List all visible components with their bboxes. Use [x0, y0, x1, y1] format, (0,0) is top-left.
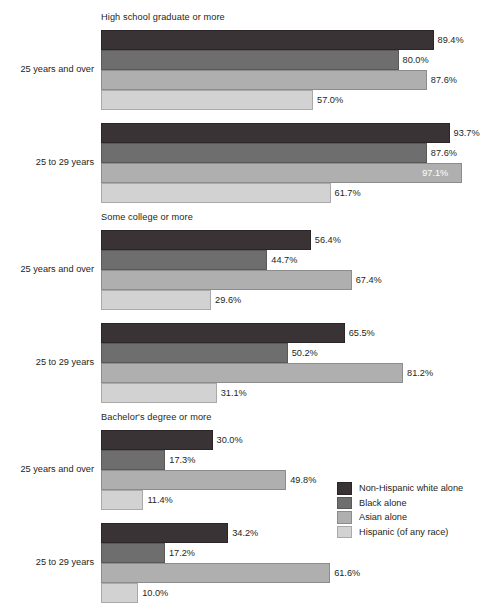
bar-1	[101, 450, 165, 470]
bar-3	[101, 583, 138, 603]
category-label: 25 to 29 years	[0, 157, 94, 167]
bar-row: 17.3%	[101, 450, 485, 470]
bar-row: 67.4%	[101, 270, 485, 290]
legend-item: Hispanic (of any race)	[337, 525, 485, 540]
category-label: 25 to 29 years	[0, 357, 94, 367]
bar-0	[101, 123, 450, 143]
bar-0	[101, 323, 345, 343]
bar-value-label: 56.4%	[315, 235, 341, 245]
bar-value-label: 17.2%	[169, 548, 195, 558]
bar-value-label: 49.8%	[290, 475, 316, 485]
bar-2	[101, 363, 403, 383]
bar-value-label: 97.1%	[422, 168, 448, 178]
legend-swatch-icon	[337, 511, 352, 524]
bar-row: 61.7%	[101, 183, 485, 203]
bar-row: 87.6%	[101, 70, 485, 90]
bar-row: 31.1%	[101, 383, 485, 403]
bar-row: 93.7%	[101, 123, 485, 143]
bar-1	[101, 543, 165, 563]
bar-3	[101, 183, 331, 203]
bar-value-label: 81.2%	[407, 368, 433, 378]
bar-2	[101, 563, 330, 583]
bar-0	[101, 230, 311, 250]
bar-1	[101, 343, 288, 363]
legend-label: Black alone	[359, 498, 407, 508]
bar-row: 30.0%	[101, 430, 485, 450]
bar-1	[101, 250, 267, 270]
bar-row: 81.2%	[101, 363, 485, 383]
legend-label: Asian alone	[359, 512, 407, 522]
section-title: Bachelor's degree or more	[101, 412, 211, 422]
legend-swatch-icon	[337, 526, 352, 539]
bar-value-label: 30.0%	[217, 435, 243, 445]
bar-value-label: 89.4%	[438, 35, 464, 45]
legend-item: Non-Hispanic white alone	[337, 481, 485, 496]
bar-0	[101, 523, 228, 543]
bar-row: 29.6%	[101, 290, 485, 310]
bar-value-label: 34.2%	[232, 528, 258, 538]
bar-row: 65.5%	[101, 323, 485, 343]
bar-row: 89.4%	[101, 30, 485, 50]
section-title: Some college or more	[101, 212, 193, 222]
bar-row: 97.1%	[101, 163, 485, 183]
bar-value-label: 80.0%	[403, 55, 429, 65]
bar-3	[101, 90, 313, 110]
legend-item: Black alone	[337, 496, 485, 511]
bar-value-label: 87.6%	[431, 148, 457, 158]
bar-2	[101, 470, 286, 490]
bar-2	[101, 70, 427, 90]
bar-row: 44.7%	[101, 250, 485, 270]
bar-row: 57.0%	[101, 90, 485, 110]
bar-row: 61.6%	[101, 563, 485, 583]
bar-2	[101, 270, 352, 290]
bar-value-label: 29.6%	[215, 295, 241, 305]
bar-row: 56.4%	[101, 230, 485, 250]
bar-value-label: 11.4%	[147, 495, 172, 505]
bar-value-label: 67.4%	[356, 275, 382, 285]
legend-swatch-icon	[337, 497, 352, 510]
bar-row: 10.0%	[101, 583, 485, 603]
category-label: 25 years and over	[0, 464, 94, 474]
bar-value-label: 57.0%	[317, 95, 343, 105]
bar-value-label: 65.5%	[349, 328, 375, 338]
legend-item: Asian alone	[337, 510, 485, 525]
bar-row: 50.2%	[101, 343, 485, 363]
bar-3	[101, 383, 217, 403]
bar-value-label: 61.6%	[334, 568, 360, 578]
bar-1	[101, 143, 427, 163]
bar-value-label: 10.0%	[142, 588, 168, 598]
bar-row: 17.2%	[101, 543, 485, 563]
bar-value-label: 31.1%	[221, 388, 247, 398]
category-label: 25 years and over	[0, 64, 94, 74]
category-label: 25 years and over	[0, 264, 94, 274]
bar-value-label: 44.7%	[271, 255, 297, 265]
section-title: High school graduate or more	[101, 12, 225, 22]
bar-row: 87.6%	[101, 143, 485, 163]
bar-2	[101, 163, 462, 183]
bar-1	[101, 50, 399, 70]
bar-0	[101, 430, 213, 450]
category-label: 25 to 29 years	[0, 557, 94, 567]
bar-3	[101, 490, 143, 510]
bar-value-label: 87.6%	[431, 75, 457, 85]
bar-3	[101, 290, 211, 310]
bar-value-label: 17.3%	[169, 455, 195, 465]
bar-value-label: 61.7%	[335, 188, 361, 198]
legend-label: Non-Hispanic white alone	[359, 483, 463, 493]
bar-0	[101, 30, 434, 50]
legend-label: Hispanic (of any race)	[359, 527, 448, 537]
legend-swatch-icon	[337, 482, 352, 495]
bar-row: 80.0%	[101, 50, 485, 70]
grouped-bar-chart: High school graduate or more25 years and…	[0, 0, 485, 616]
bar-value-label: 93.7%	[454, 128, 480, 138]
bar-value-label: 50.2%	[292, 348, 318, 358]
